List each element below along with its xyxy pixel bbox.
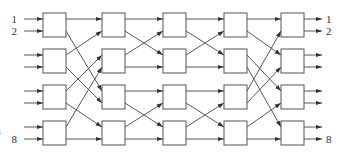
- switch-box-stage2-3: [102, 85, 125, 109]
- switch-box-stage2-1: [102, 13, 125, 37]
- wire-stage1-out6: [66, 103, 102, 127]
- clipped-edge-glyph: s: [0, 125, 1, 137]
- switch-box-stage4-3: [224, 85, 247, 109]
- switch-box-stage3-2: [163, 49, 186, 73]
- switch-boxes: [43, 13, 304, 145]
- output-labels: 128: [326, 13, 332, 145]
- clipped-letter: s: [0, 125, 1, 137]
- switch-box-stage5-2: [281, 49, 304, 73]
- switch-box-stage3-3: [163, 85, 186, 109]
- switch-box-stage5-4: [281, 121, 304, 145]
- output-label-1: 1: [326, 13, 332, 25]
- switch-box-stage1-2: [43, 49, 66, 73]
- switch-box-stage4-4: [224, 121, 247, 145]
- wire-stage4-out7: [247, 103, 281, 127]
- switch-box-stage4-2: [224, 49, 247, 73]
- wire-stage4-out2: [247, 31, 281, 55]
- input-label-8: 8: [12, 133, 18, 145]
- switch-box-stage3-4: [163, 121, 186, 145]
- input-labels: 128: [12, 13, 18, 145]
- switch-box-stage5-3: [281, 85, 304, 109]
- switch-box-stage3-1: [163, 13, 186, 37]
- input-label-2: 2: [12, 25, 18, 37]
- switch-box-stage5-1: [281, 13, 304, 37]
- input-label-1: 1: [12, 13, 18, 25]
- output-label-2: 2: [326, 25, 332, 37]
- output-label-8: 8: [326, 133, 332, 145]
- switch-box-stage1-1: [43, 13, 66, 37]
- switch-box-stage2-4: [102, 121, 125, 145]
- switch-box-stage4-1: [224, 13, 247, 37]
- switching-network-diagram: s 128 128: [0, 0, 346, 152]
- switch-box-stage1-3: [43, 85, 66, 109]
- switch-box-stage2-2: [102, 49, 125, 73]
- switch-box-stage1-4: [43, 121, 66, 145]
- wire-stage1-out3: [66, 31, 102, 55]
